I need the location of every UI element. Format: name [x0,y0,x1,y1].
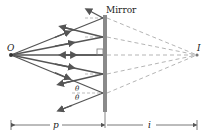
mirror [103,15,107,112]
theta-lower-label: θ [75,94,80,102]
image-distance-label: i [148,120,151,130]
object-point [9,53,13,57]
image-point [195,53,198,56]
plane-mirror-diagram: Mirror O I θ θ p i [0,0,206,136]
theta-upper-label: θ [75,85,80,93]
virtual-rays [107,18,197,93]
reflected-rays [60,10,103,110]
mirror-label: Mirror [106,5,137,15]
dimension-lines [11,120,197,130]
right-angle-marker [97,49,103,55]
object-label: O [7,43,15,53]
object-distance-label: p [53,120,59,130]
image-label: I [196,43,201,53]
